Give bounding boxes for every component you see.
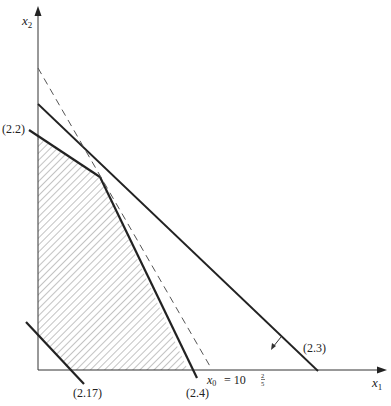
svg-text:= 10: = 10	[224, 373, 246, 387]
label-2-2: (2.2)	[2, 122, 25, 136]
lp-diagram: x2 x1 (2.2) (2.3) (2.4) (2.17) x0 = 10 2…	[0, 0, 391, 406]
label-2-3: (2.3)	[303, 341, 326, 355]
label-2-4: (2.4)	[186, 386, 209, 400]
x2-axis-arrow-icon	[35, 6, 42, 16]
x2-axis-label: x2	[21, 13, 32, 30]
svg-text:x0: x0	[206, 373, 216, 388]
svg-text:2: 2	[261, 372, 264, 379]
label-2-17: (2.17)	[73, 386, 102, 400]
x1-axis-label: x1	[371, 375, 382, 392]
svg-text:5: 5	[261, 380, 264, 387]
x1-axis-arrow-icon	[377, 367, 387, 374]
objective-label: x0 = 10 2 5	[206, 372, 265, 388]
feasible-region	[38, 138, 188, 370]
